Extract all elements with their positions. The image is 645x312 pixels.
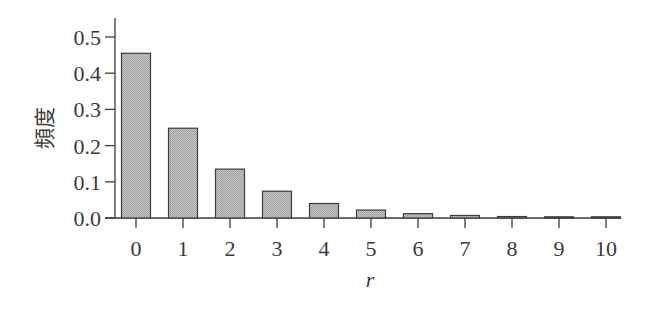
x-tick-label: 5 xyxy=(366,236,377,261)
x-tick-label: 9 xyxy=(554,236,565,261)
bars xyxy=(122,53,621,218)
x-tick-label: 4 xyxy=(319,236,330,261)
y-tick-label: 0.5 xyxy=(74,25,102,50)
x-axis: 012345678910 xyxy=(105,218,621,261)
bar-8 xyxy=(498,217,527,218)
y-tick-label: 0.2 xyxy=(74,134,102,159)
bar-5 xyxy=(357,210,386,218)
bar-chart: 0.00.10.20.30.40.5 012345678910 r 頻度 xyxy=(0,0,645,312)
x-tick-label: 10 xyxy=(595,236,617,261)
bar-4 xyxy=(310,204,339,218)
y-axis: 0.00.10.20.30.40.5 xyxy=(74,18,116,231)
y-tick-label: 0.4 xyxy=(74,61,102,86)
x-tick-label: 1 xyxy=(178,236,189,261)
x-tick-label: 8 xyxy=(507,236,518,261)
bar-3 xyxy=(263,191,292,218)
bar-7 xyxy=(451,215,480,218)
x-tick-label: 0 xyxy=(131,236,142,261)
x-axis-title: r xyxy=(366,267,375,292)
x-tick-label: 7 xyxy=(460,236,471,261)
bar-0 xyxy=(122,53,151,218)
bar-1 xyxy=(169,128,198,218)
x-tick-label: 2 xyxy=(225,236,236,261)
x-tick-label: 3 xyxy=(272,236,283,261)
bar-10 xyxy=(592,217,621,218)
y-axis-title: 頻度 xyxy=(33,107,57,149)
bar-9 xyxy=(545,217,574,218)
x-tick-label: 6 xyxy=(413,236,424,261)
bar-6 xyxy=(404,214,433,218)
y-tick-label: 0.3 xyxy=(74,97,102,122)
y-tick-label: 0.1 xyxy=(74,170,102,195)
y-tick-label: 0.0 xyxy=(74,206,102,231)
bar-2 xyxy=(216,169,245,218)
